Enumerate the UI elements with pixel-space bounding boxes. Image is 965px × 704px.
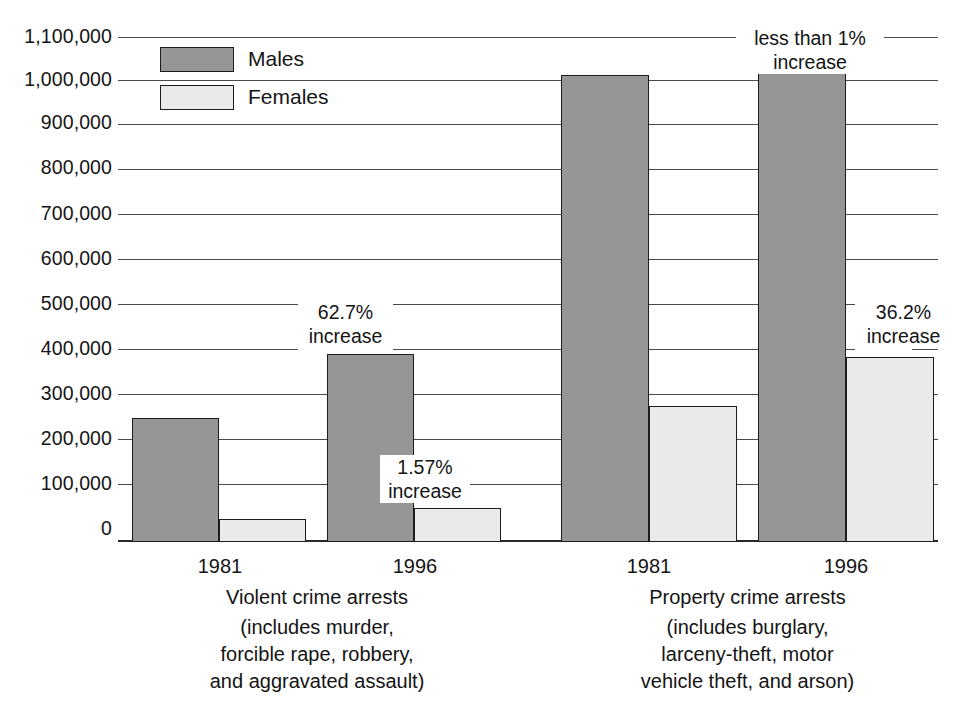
group-subtitle-line: and aggravated assault) [132,668,502,695]
bar-property-1981-males [561,75,649,542]
x-label-property-1996: 1996 [801,554,891,578]
bar-chart: 1,100,000 1,000,000 900,000 800,000 700,… [0,0,965,704]
group-subtitle-line: vehicle theft, and arson) [561,668,934,695]
annotation-line: 36.2% [855,300,952,324]
x-label-violent-1996: 1996 [370,554,460,578]
annotation-line: 62.7% [298,300,393,324]
annotation-violent-males-increase: 62.7% increase [298,300,393,348]
annotation-line: 1.57% [380,455,470,479]
annotation-property-females-increase: 36.2% increase [855,300,952,348]
legend-swatch-males-icon [160,47,234,72]
group-subtitle-violent-crime: (includes murder, forcible rape, robbery… [132,614,502,695]
legend-label-females: Females [248,82,329,112]
annotation-line: increase [855,324,952,348]
gridline-1100000-right [884,37,938,38]
annotation-line: increase [380,479,470,503]
bar-property-1996-females [846,357,934,542]
annotation-line: less than 1% [736,26,884,50]
plot-area: Males Females 62.7% increase 1.57% incre… [0,0,965,704]
group-subtitle-line: (includes murder, [132,614,502,641]
bar-violent-1996-males [327,354,414,542]
legend-swatch-females-icon [160,85,234,110]
bar-violent-1996-females [414,508,501,542]
bar-property-1981-females [649,406,737,542]
group-title-violent-crime: Violent crime arrests [132,584,502,610]
bar-violent-1981-males [132,418,219,542]
annotation-violent-females-increase: 1.57% increase [380,455,470,503]
legend: Males Females [160,44,390,120]
group-subtitle-line: forcible rape, robbery, [132,641,502,668]
gridline-400000-left [118,349,298,350]
bar-violent-1981-females [219,519,306,542]
annotation-property-males-increase: less than 1% increase [736,26,884,74]
bar-property-1996-males [758,72,846,542]
legend-item-males: Males [160,44,390,78]
group-subtitle-line: larceny-theft, motor [561,641,934,668]
annotation-line: increase [298,324,393,348]
legend-label-males: Males [248,44,304,74]
annotation-line: increase [736,50,884,74]
gridline-400000-stub [912,349,938,350]
legend-item-females: Females [160,82,390,116]
x-label-property-1981: 1981 [604,554,694,578]
group-subtitle-line: (includes burglary, [561,614,934,641]
gridline-500000-left [118,304,298,305]
group-subtitle-property-crime: (includes burglary, larceny-theft, motor… [561,614,934,695]
group-title-property-crime: Property crime arrests [561,584,934,610]
x-label-violent-1981: 1981 [175,554,265,578]
gridline-1100000-left [118,37,736,38]
